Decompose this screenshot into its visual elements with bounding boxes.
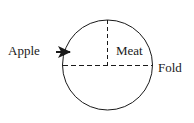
meat-label: Meat [116, 43, 143, 58]
diagram-canvas: Apple Meat Fold [0, 0, 194, 123]
fold-label: Fold [158, 60, 182, 75]
circle-fold-diagram: Apple Meat Fold [0, 0, 194, 123]
apple-label: Apple [8, 43, 40, 58]
